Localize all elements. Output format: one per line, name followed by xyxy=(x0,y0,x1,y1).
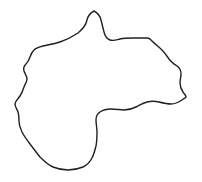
region-outline-map xyxy=(0,0,202,182)
map-canvas xyxy=(0,0,202,182)
